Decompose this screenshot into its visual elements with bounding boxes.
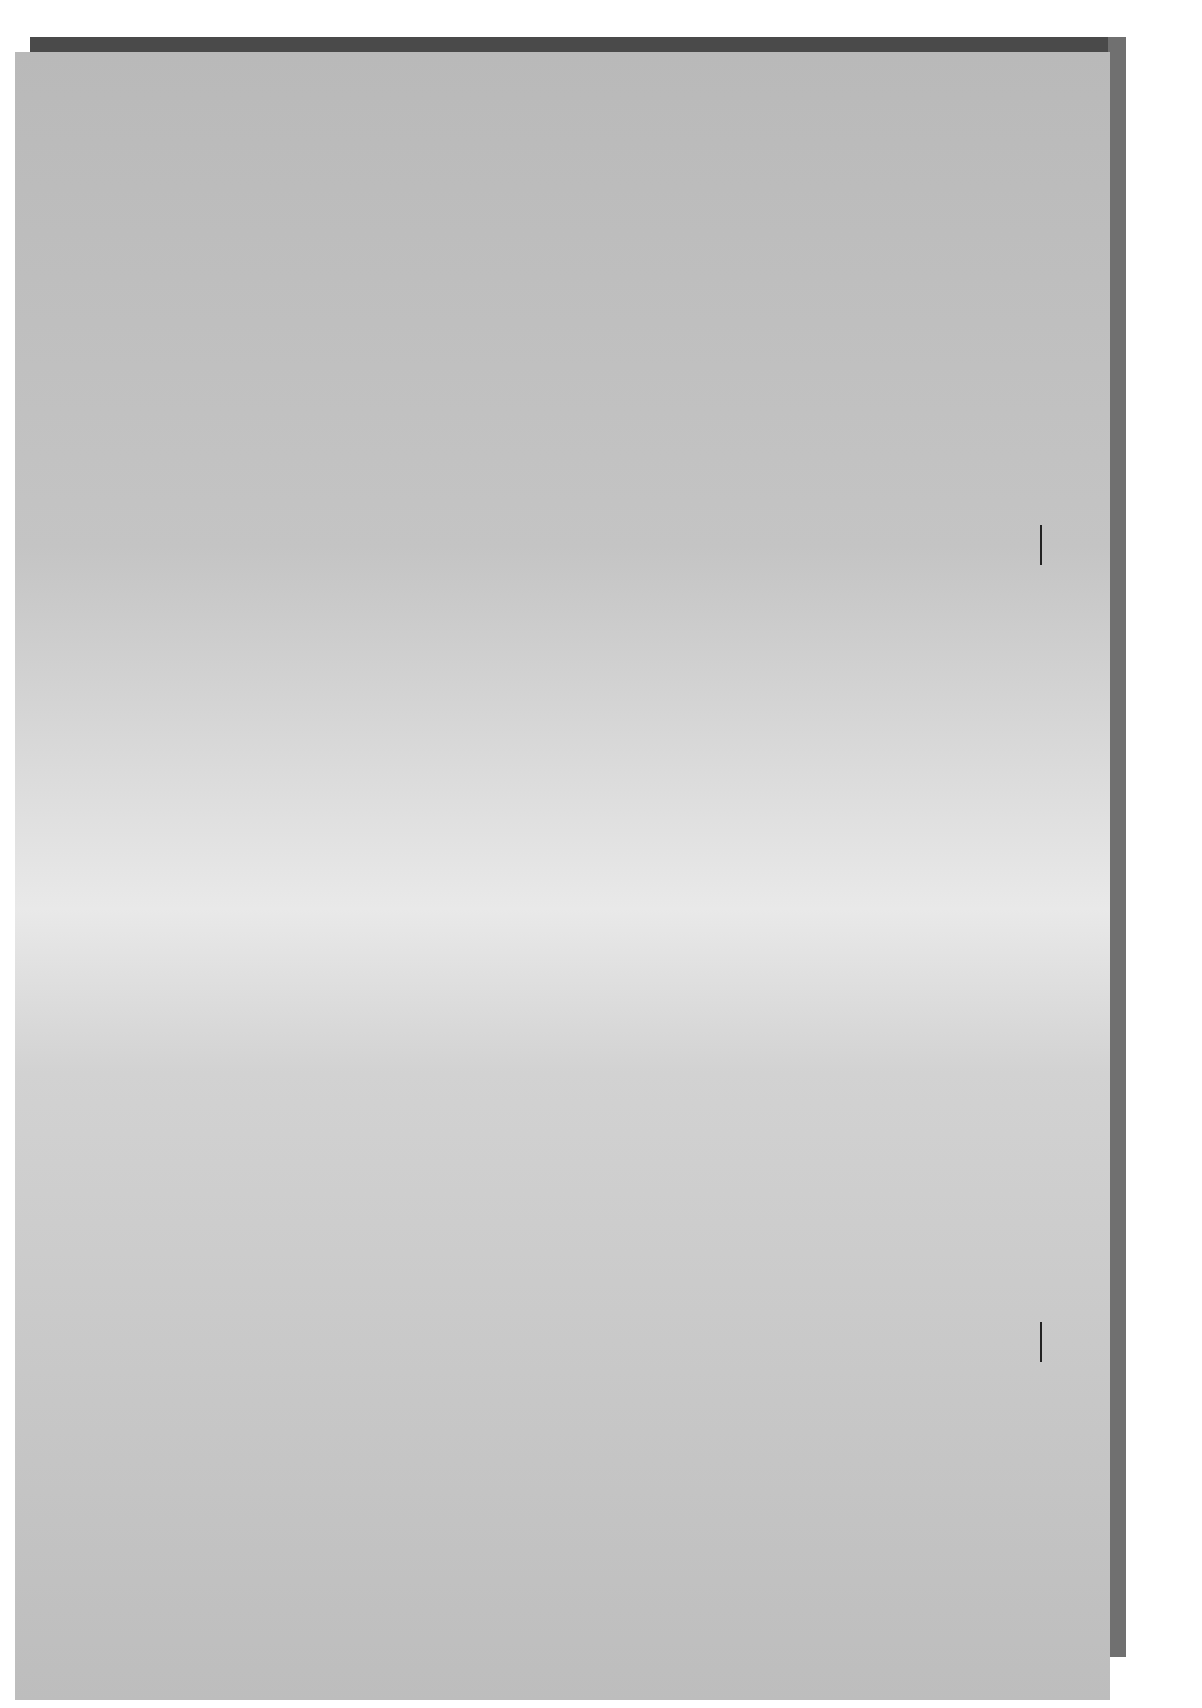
legend-policy-judicial	[1030, 1312, 1051, 1362]
legend-budget-management	[1030, 515, 1051, 565]
chart-panel	[15, 52, 1110, 1700]
header-band	[30, 37, 1125, 53]
panel-shadow	[1108, 37, 1126, 1657]
legend-line	[1040, 1322, 1042, 1362]
legend-solid-line	[1040, 525, 1042, 565]
